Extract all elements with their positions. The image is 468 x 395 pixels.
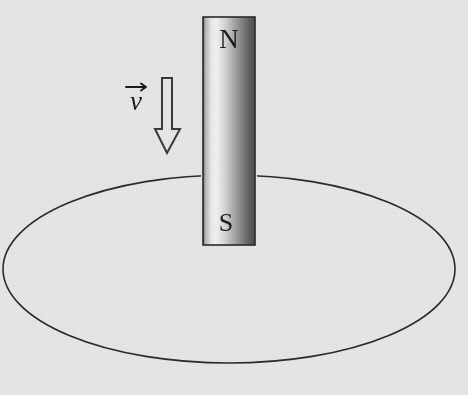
- figure-canvas: v N S: [0, 0, 468, 395]
- bar-magnet: N S: [203, 17, 255, 245]
- velocity-label: v: [130, 86, 142, 116]
- physics-figure-magnet-through-loop: v N S: [0, 0, 468, 395]
- magnet-north-label: N: [219, 24, 239, 54]
- magnet-south-label: S: [219, 208, 233, 237]
